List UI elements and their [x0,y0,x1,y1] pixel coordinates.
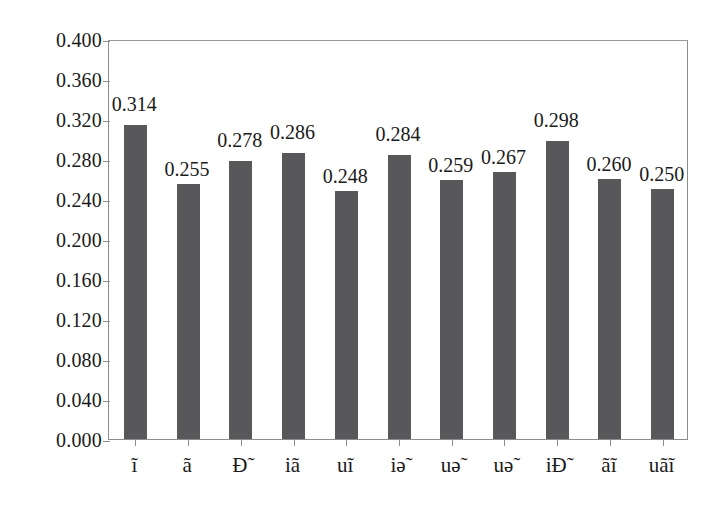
bar [493,172,516,439]
bar [282,153,305,439]
bar-value-label: 0.284 [362,124,434,144]
bar [388,155,411,439]
y-axis-tick-label: 0.400 [24,30,102,50]
x-axis-tick-label: uə̃ [473,452,533,478]
bar [124,125,147,439]
y-axis-tick-mark [103,161,110,162]
x-axis-tick-mark [346,439,347,446]
x-axis-tick-label: uĩ [315,452,375,478]
y-axis-tick-label: 0.120 [24,310,102,330]
bar-chart: 0.4000.3600.3200.2800.2400.2000.1600.120… [0,0,717,505]
y-axis-tick-mark [103,321,110,322]
bar [598,179,621,439]
y-axis-tick-mark [103,41,110,42]
y-axis-tick-mark [103,361,110,362]
x-axis-tick-mark [610,439,611,446]
y-axis-tick-label: 0.000 [24,430,102,450]
y-axis-tick-label: 0.080 [24,350,102,370]
bar-value-label: 0.250 [626,164,698,184]
y-axis-tick-mark [103,81,110,82]
x-axis-tick-mark [504,439,505,446]
x-axis-tick-label: uə̃ [421,452,481,478]
x-axis-tick-mark [399,439,400,446]
x-axis-tick-label: ã [157,452,217,478]
x-axis-tick-mark [241,439,242,446]
x-axis-tick-label: Ð̃ [210,452,270,478]
x-axis-tick-mark [294,439,295,446]
bar [229,161,252,439]
bar [335,191,358,439]
x-axis-tick-mark [188,439,189,446]
bar [546,141,569,439]
x-axis-tick-labels: ĩãÐ̃iãuĩiə̃uə̃uə̃iÐ̃ãĩuãĩ [108,452,688,492]
y-axis-tick-mark [103,441,110,442]
x-axis-tick-label: ĩ [104,452,164,478]
x-axis-tick-mark [452,439,453,446]
x-axis-tick-label: ãĩ [579,452,639,478]
x-axis-tick-label: iã [263,452,323,478]
y-axis-tick-label: 0.040 [24,390,102,410]
y-axis-tick-label: 0.160 [24,270,102,290]
bar-value-label: 0.248 [309,166,381,186]
bar-value-label: 0.267 [467,147,539,167]
x-axis-tick-mark [557,439,558,446]
bar [651,189,674,439]
plot-inner [109,41,687,439]
bar-value-label: 0.255 [151,159,223,179]
y-axis-tick-mark [103,281,110,282]
bar [440,180,463,439]
y-axis-tick-label: 0.320 [24,110,102,130]
y-axis-tick-label: 0.240 [24,190,102,210]
bar [177,184,200,439]
bar-value-label: 0.314 [98,94,170,114]
y-axis-tick-label: 0.280 [24,150,102,170]
y-axis-tick-mark [103,241,110,242]
x-axis-tick-mark [663,439,664,446]
y-axis-tick-labels: 0.4000.3600.3200.2800.2400.2000.1600.120… [16,0,102,505]
plot-area [108,40,688,440]
y-axis-tick-label: 0.360 [24,70,102,90]
x-axis-tick-label: uãĩ [632,452,692,478]
y-axis-tick-mark [103,401,110,402]
x-axis-tick-label: iÐ̃ [526,452,586,478]
bar-value-label: 0.298 [520,110,592,130]
x-axis-tick-mark [135,439,136,446]
bar-value-label: 0.286 [257,122,329,142]
x-axis-tick-label: iə̃ [368,452,428,478]
y-axis-tick-mark [103,201,110,202]
y-axis-tick-label: 0.200 [24,230,102,250]
y-axis-tick-mark [103,121,110,122]
